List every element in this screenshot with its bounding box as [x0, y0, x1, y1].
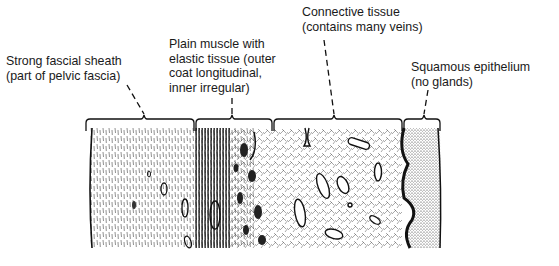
label-line: Strong fascial sheath	[6, 54, 122, 69]
label-line: Squamous epithelium	[411, 60, 530, 75]
label-line: (contains many veins)	[302, 20, 423, 35]
leader-connective	[324, 40, 334, 114]
label-line: inner irregular)	[169, 81, 276, 96]
label-plain-muscle: Plain muscle with elastic tissue (outer …	[169, 37, 276, 95]
leader-epithelium	[424, 90, 428, 114]
label-line: (no glands)	[411, 75, 530, 90]
label-line: elastic tissue (outer	[169, 52, 276, 67]
plain-muscle-layer	[194, 128, 270, 248]
label-fascial-sheath: Strong fascial sheath (part of pelvic fa…	[6, 54, 122, 83]
label-line: coat longitudinal,	[169, 66, 276, 81]
label-line: (part of pelvic fascia)	[6, 69, 122, 84]
connective-tissue-layer	[270, 128, 402, 248]
tissue-cross-section-drawing	[0, 0, 559, 266]
squamous-epithelium-layer	[402, 128, 441, 248]
leader-fascia	[127, 85, 144, 114]
label-connective-tissue: Connective tissue (contains many veins)	[302, 5, 423, 34]
label-line: Plain muscle with	[169, 37, 276, 52]
label-line: Connective tissue	[302, 5, 423, 20]
label-squamous-epithelium: Squamous epithelium (no glands)	[411, 60, 530, 89]
